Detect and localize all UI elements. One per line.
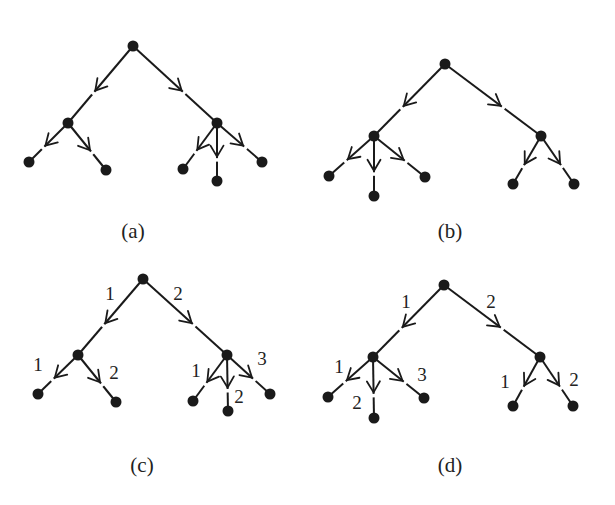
tree-node [369, 191, 380, 202]
edge-gap [404, 382, 407, 384]
tree-node [419, 393, 430, 404]
edge-label: 1 [334, 356, 344, 377]
tree-node [222, 350, 233, 361]
tree-edge [513, 357, 540, 406]
edge-gap [522, 387, 524, 390]
tree-node [24, 157, 35, 168]
tree-node [508, 179, 519, 190]
edge-label: 1 [33, 354, 43, 375]
tree-node [369, 131, 380, 142]
tree-node [323, 392, 334, 403]
edge-gap [400, 107, 402, 109]
panel-d: 1212312(d) [323, 280, 579, 478]
edge-gap [399, 328, 401, 330]
tree-figure: (a) (b) 1212123(c) 1212312(d) [0, 0, 615, 505]
edge-gap [51, 379, 54, 381]
tree-edge [541, 136, 574, 184]
tree-edge [374, 136, 425, 177]
panel-caption: (c) [130, 453, 153, 477]
edge-gap [183, 92, 186, 94]
tree-node [440, 59, 451, 70]
edge-gap [91, 151, 93, 154]
tree-edge [445, 64, 541, 136]
edge-label: 2 [109, 362, 119, 383]
tree-node [128, 41, 139, 52]
edge-gap [204, 383, 206, 386]
edge-label: 2 [352, 392, 362, 413]
tree-edge [329, 136, 374, 176]
panel-caption: (d) [438, 453, 463, 477]
edge-gap [101, 383, 103, 386]
tree-node [568, 401, 579, 412]
edge-gap [560, 387, 562, 390]
panel-caption: (b) [438, 219, 463, 243]
tree-edge [217, 123, 262, 162]
tree-edge [68, 123, 106, 170]
edge-gap [42, 147, 44, 149]
edge-label: 2 [486, 291, 496, 312]
edge-gap [522, 165, 524, 168]
tree-node [536, 131, 547, 142]
tree-edge [29, 123, 68, 162]
tree-node [265, 389, 276, 400]
panel-b: (b) [324, 59, 580, 244]
edge-gap [193, 324, 196, 326]
panel-c: 1212123(c) [33, 274, 276, 478]
edge-label: 1 [105, 283, 115, 304]
edge-gap [244, 147, 247, 149]
edge-gap [501, 328, 504, 330]
tree-node [368, 352, 379, 363]
tree-edge [183, 123, 217, 169]
edge-label: 2 [234, 386, 244, 407]
tree-node [63, 118, 74, 129]
tree-node [73, 350, 84, 361]
edge-gap [405, 161, 408, 163]
tree-node [223, 406, 234, 417]
tree-node [420, 172, 431, 183]
tree-edge [227, 355, 228, 411]
edge-gap [194, 151, 196, 154]
edge-label: 3 [417, 364, 427, 385]
edge-label: 1 [191, 360, 201, 381]
tree-node [138, 274, 149, 285]
tree-node [188, 396, 199, 407]
tree-node [324, 171, 335, 182]
tree-node [178, 164, 189, 175]
panel-a: (a) [24, 41, 268, 244]
tree-edge [133, 46, 217, 123]
tree-edge [68, 46, 133, 123]
tree-node [111, 397, 122, 408]
tree-edge [374, 64, 445, 136]
tree-node [508, 401, 519, 412]
tree-node [439, 280, 450, 291]
edge-gap [561, 165, 563, 168]
edge-label: 2 [569, 369, 579, 390]
edge-label: 1 [500, 371, 510, 392]
tree-node [569, 179, 580, 190]
edge-label: 1 [401, 291, 411, 312]
edge-gap [502, 107, 505, 109]
tree-node [33, 389, 44, 400]
edge-gap [92, 92, 94, 95]
tree-edge [143, 279, 227, 355]
edge-gap [344, 160, 347, 162]
tree-edge [513, 136, 541, 184]
edge-gap [102, 324, 104, 327]
edge-label: 3 [257, 348, 267, 369]
tree-node [535, 352, 546, 363]
tree-edge [540, 357, 573, 406]
tree-node [257, 157, 268, 168]
tree-edge [38, 355, 78, 394]
tree-node [101, 165, 112, 176]
edge-label: 2 [173, 283, 183, 304]
tree-node [369, 413, 380, 424]
edge-gap [343, 381, 346, 383]
tree-node [212, 118, 223, 129]
tree-edge [373, 357, 374, 418]
tree-node [212, 176, 223, 187]
edge-gap [253, 379, 256, 381]
panel-caption: (a) [121, 219, 144, 243]
